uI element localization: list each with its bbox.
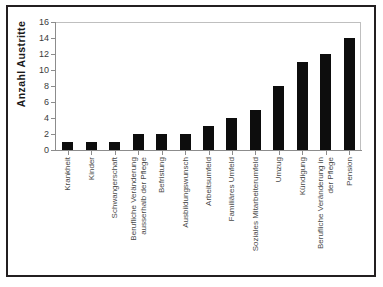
- y-tick-label: 16: [19, 18, 49, 27]
- bar: [297, 62, 308, 150]
- y-tick-label: 4: [19, 114, 49, 123]
- bar: [133, 134, 144, 150]
- bar: [62, 142, 73, 150]
- x-tick-label: Kündigung: [298, 157, 307, 265]
- x-tick-label: Krankheit: [63, 157, 72, 265]
- y-tick-mark: [51, 134, 55, 135]
- bar: [273, 86, 284, 150]
- y-tick-label-wrap: 14: [16, 34, 49, 43]
- x-tick-label-line: Soziales Mitarbeiterumfeld: [251, 157, 260, 251]
- y-tick-label: 6: [19, 98, 49, 107]
- bar: [320, 54, 331, 150]
- x-tick-label: Befristung: [157, 157, 166, 265]
- bar-chart: Anzahl Austritte 0246810121416 Krankheit…: [0, 0, 383, 287]
- x-tick-label-line: ausserhalb der Pflege: [138, 157, 148, 265]
- x-tick-mark: [91, 151, 92, 155]
- x-tick-mark: [68, 151, 69, 155]
- y-tick-mark: [51, 86, 55, 87]
- x-tick-label: Schwangerschaft: [110, 157, 119, 265]
- x-tick-label-line: Pension: [345, 157, 354, 186]
- y-tick-label-wrap: 6: [16, 98, 49, 107]
- x-tick-label-line: der Pflege: [326, 157, 336, 265]
- x-tick-label-line: Berufliche Veränderung in: [316, 157, 325, 249]
- y-tick-mark: [51, 102, 55, 103]
- y-tick-label: 10: [19, 66, 49, 75]
- y-tick-mark: [51, 22, 55, 23]
- x-tick-label: Umzug: [274, 157, 283, 265]
- x-tick-label: Pension: [345, 157, 354, 265]
- x-tick-label-line: Arbeitsumfeld: [204, 157, 213, 206]
- y-tick-mark: [51, 54, 55, 55]
- x-tick-label-line: Umzug: [274, 157, 283, 182]
- x-tick-mark: [326, 151, 327, 155]
- bar: [156, 134, 167, 150]
- bar: [344, 38, 355, 150]
- y-tick-label-wrap: 4: [16, 114, 49, 123]
- bar: [250, 110, 261, 150]
- x-tick-mark: [349, 151, 350, 155]
- bar: [180, 134, 191, 150]
- x-tick-label-line: Kündigung: [298, 157, 307, 195]
- x-tick-mark: [279, 151, 280, 155]
- x-tick-mark: [255, 151, 256, 155]
- x-tick-mark: [185, 151, 186, 155]
- x-tick-label: Soziales Mitarbeiterumfeld: [251, 157, 260, 265]
- x-tick-label: Kinder: [87, 157, 96, 265]
- x-tick-label-line: Berufliche Veränderung: [129, 157, 138, 241]
- y-tick-label-wrap: 2: [16, 130, 49, 139]
- x-tick-label: Ausbildungswunsch: [181, 157, 190, 265]
- bar: [203, 126, 214, 150]
- x-tick-label-line: Familiäres Umfeld: [227, 157, 236, 221]
- bar: [86, 142, 97, 150]
- y-tick-label: 8: [19, 82, 49, 91]
- bar: [226, 118, 237, 150]
- y-tick-label: 2: [19, 130, 49, 139]
- y-tick-label: 0: [19, 146, 49, 155]
- y-tick-label: 14: [19, 34, 49, 43]
- y-tick-label: 12: [19, 50, 49, 59]
- y-axis-line: [55, 22, 56, 151]
- x-tick-label: Berufliche Veränderung inder Pflege: [316, 157, 335, 265]
- x-tick-mark: [302, 151, 303, 155]
- x-tick-label: Arbeitsumfeld: [204, 157, 213, 265]
- y-tick-label-wrap: 0: [16, 146, 49, 155]
- x-tick-label-line: Ausbildungswunsch: [181, 157, 190, 228]
- y-tick-label-wrap: 10: [16, 66, 49, 75]
- y-tick-label-wrap: 16: [16, 18, 49, 27]
- x-tick-label-line: Schwangerschaft: [110, 157, 119, 218]
- y-tick-mark: [51, 70, 55, 71]
- y-tick-label-wrap: 12: [16, 50, 49, 59]
- x-tick-label: Berufliche Veränderungausserhalb der Pfl…: [129, 157, 148, 265]
- y-tick-mark: [51, 118, 55, 119]
- x-tick-mark: [232, 151, 233, 155]
- x-tick-label-line: Kinder: [87, 157, 96, 180]
- x-tick-label-line: Befristung: [157, 157, 166, 193]
- y-tick-mark: [51, 150, 55, 151]
- x-tick-label: Familiäres Umfeld: [227, 157, 236, 265]
- x-tick-mark: [115, 151, 116, 155]
- x-tick-mark: [209, 151, 210, 155]
- bar: [109, 142, 120, 150]
- x-tick-label-line: Krankheit: [63, 157, 72, 191]
- x-tick-mark: [138, 151, 139, 155]
- y-tick-label-wrap: 8: [16, 82, 49, 91]
- figure: Anzahl Austritte 0246810121416 Krankheit…: [0, 0, 383, 287]
- x-tick-mark: [162, 151, 163, 155]
- y-tick-mark: [51, 38, 55, 39]
